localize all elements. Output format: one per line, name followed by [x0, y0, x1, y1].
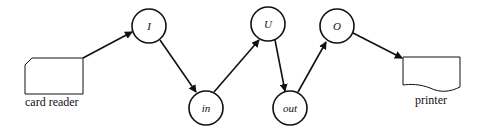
edge-O-printer [353, 33, 402, 58]
card-reader-device: card reader [25, 58, 83, 109]
edge-I-in [160, 40, 196, 92]
edge-U-out [275, 40, 285, 91]
edge-cardreader-I [83, 32, 132, 58]
node-label: I [146, 20, 152, 32]
printer-icon [403, 57, 460, 91]
node-I: I [132, 9, 166, 43]
process-flow-diagram: card reader printer I in U out O [0, 0, 484, 133]
edge-in-U [214, 40, 259, 92]
printer-device: printer [403, 57, 460, 107]
node-in: in [189, 91, 223, 125]
printer-label: printer [415, 93, 447, 107]
node-label: O [333, 20, 341, 32]
node-label: in [202, 102, 211, 114]
node-label: out [283, 102, 298, 114]
node-label: U [264, 18, 273, 30]
node-U: U [251, 7, 285, 41]
card-reader-label: card reader [25, 95, 79, 109]
edge-out-O [298, 42, 326, 92]
card-reader-icon [25, 58, 83, 94]
node-O: O [320, 9, 354, 43]
edges [83, 32, 402, 92]
node-out: out [273, 91, 307, 125]
